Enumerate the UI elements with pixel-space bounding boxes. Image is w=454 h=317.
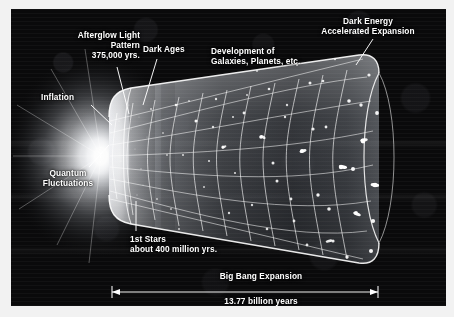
cosmos-plate: Afterglow Light Pattern 375,000 yrs. Dar… <box>11 9 446 306</box>
scanline-overlay <box>11 9 446 306</box>
universe-timeline-figure: Afterglow Light Pattern 375,000 yrs. Dar… <box>0 0 454 317</box>
